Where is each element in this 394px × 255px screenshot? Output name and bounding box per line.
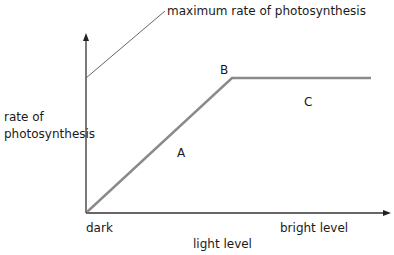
- max-rate-annotation: maximum rate of photosynthesis: [167, 4, 366, 18]
- x-start-label: dark: [86, 221, 113, 235]
- y-axis-label-line2: photosynthesis: [4, 127, 95, 141]
- rate-curve: [87, 78, 371, 212]
- x-axis-label: light level: [193, 237, 252, 251]
- y-axis-label-line1: rate of: [4, 110, 44, 124]
- region-a-label: A: [177, 146, 185, 160]
- region-c-label: C: [304, 95, 312, 109]
- point-b-label: B: [220, 63, 228, 77]
- x-axis-arrow-icon: [383, 210, 391, 216]
- annotation-pointer: [86, 11, 165, 78]
- y-axis-arrow-icon: [83, 33, 89, 41]
- x-end-label: bright level: [280, 221, 348, 235]
